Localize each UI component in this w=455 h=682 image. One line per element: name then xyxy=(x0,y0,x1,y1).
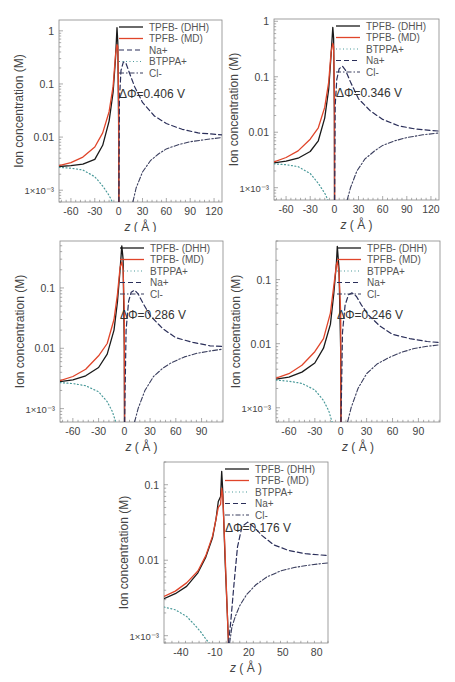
series-line-cl- xyxy=(133,138,222,202)
legend-label: BTPPA+ xyxy=(367,266,405,277)
x-tick-label: 30 xyxy=(353,203,365,215)
delta-phi-annotation: ΔΦ=0.346 V xyxy=(336,86,402,100)
series-line-tpfb-dhh- xyxy=(164,471,229,643)
x-tick-label: -60 xyxy=(63,205,78,217)
series-group xyxy=(59,28,222,212)
legend-label: Cl- xyxy=(149,68,162,79)
y-tick-label: 1 xyxy=(263,15,269,27)
legend-label: Na+ xyxy=(367,277,386,288)
plot-frame xyxy=(60,241,223,422)
x-tick-label: 90 xyxy=(413,425,425,437)
series-line-cl- xyxy=(135,349,223,422)
y-tick-label: 0.01 xyxy=(34,131,55,143)
y-tick-label: 1×10⁻³ xyxy=(24,185,54,196)
y-tick-label: 0.01 xyxy=(251,338,272,350)
legend-label: TPFB- (DHH) xyxy=(149,22,209,33)
x-tick-label: 30 xyxy=(361,425,373,437)
chart-svg: -40-102050801×10⁻³0.010.1Ion concentrati… xyxy=(110,450,350,682)
series-line-tpfb-md- xyxy=(274,43,335,200)
x-tick-label: 60 xyxy=(387,425,399,437)
series-line-cl- xyxy=(347,133,439,200)
x-tick-label: 90 xyxy=(184,205,196,217)
series-group xyxy=(60,246,223,433)
legend-label: Cl- xyxy=(366,67,379,78)
x-tick-label: 50 xyxy=(277,646,289,658)
x-tick-label: -30 xyxy=(307,425,322,437)
chart-svg: -60-3003060901201×10⁻³0.010.11Ion concen… xyxy=(227,0,455,232)
series-group xyxy=(274,27,439,210)
series-line-cl- xyxy=(230,563,328,643)
x-tick-label: -10 xyxy=(207,646,222,658)
y-tick-label: 0.1 xyxy=(256,274,271,286)
y-tick-label: 1×10⁻³ xyxy=(239,183,269,194)
x-tick-label: 0 xyxy=(121,425,127,437)
x-axis-label: z ( Å ) xyxy=(229,660,262,675)
plot-frame xyxy=(276,241,440,422)
y-tick-label: 0.1 xyxy=(40,282,55,294)
legend-label: Cl- xyxy=(367,289,380,300)
series-line-tpfb-md- xyxy=(164,488,229,643)
legend-label: Cl- xyxy=(255,510,268,521)
series-group xyxy=(276,246,440,433)
delta-phi-annotation: ΔΦ=0.406 V xyxy=(119,87,185,101)
y-tick-label: 0.01 xyxy=(139,554,160,566)
y-axis-label: Ion concentration (M) xyxy=(12,54,26,167)
legend: TPFB- (DHH)TPFB- (MD)BTPPA+Na+Cl- xyxy=(337,243,427,300)
legend-label: TPFB- (DHH) xyxy=(255,464,315,475)
series-group xyxy=(164,471,328,643)
series-line-tpfb-dhh- xyxy=(59,28,119,202)
legend-label: TPFB- (MD) xyxy=(255,475,309,486)
legend-label: TPFB- (DHH) xyxy=(150,243,210,254)
legend: TPFB- (DHH)TPFB- (MD)BTPPA+Na+Cl- xyxy=(225,464,315,521)
legend-label: TPFB- (MD) xyxy=(366,32,420,43)
x-tick-label: 20 xyxy=(243,646,255,658)
legend-label: BTPPA+ xyxy=(150,266,188,277)
legend: TPFB- (DHH)TPFB- (MD)Na+BTPPA+Cl- xyxy=(119,22,209,79)
legend-label: TPFB- (DHH) xyxy=(367,243,427,254)
x-tick-label: 30 xyxy=(137,205,149,217)
delta-phi-annotation: ΔΦ=0.246 V xyxy=(337,308,403,322)
chart-svg: -60-3003060901×10⁻³0.010.1Ion concentrat… xyxy=(227,228,455,460)
panel-4: -40-102050801×10⁻³0.010.1Ion concentrati… xyxy=(110,450,350,682)
y-tick-label: 0.1 xyxy=(254,71,269,83)
x-tick-label: 0 xyxy=(331,203,337,215)
legend-label: Cl- xyxy=(150,289,163,300)
x-tick-label: 30 xyxy=(144,425,156,437)
x-tick-label: -40 xyxy=(173,646,188,658)
legend-label: TPFB- (MD) xyxy=(149,33,203,44)
series-line-na- xyxy=(229,522,329,643)
x-tick-label: -30 xyxy=(303,203,318,215)
x-tick-label: 0 xyxy=(338,425,344,437)
panel-1: -60-3003060901201×10⁻³0.010.11Ion concen… xyxy=(227,0,455,232)
legend: TPFB- (DHH)TPFB- (MD)BTPPA+Na+Cl- xyxy=(336,21,426,78)
series-line-tpfb-md- xyxy=(59,45,119,202)
series-line-cl- xyxy=(348,345,440,422)
chart-svg: -60-3003060901201×10⁻³0.010.11Ion concen… xyxy=(0,0,230,232)
x-tick-label: 0 xyxy=(116,205,122,217)
x-tick-label: -60 xyxy=(281,425,296,437)
legend-label: BTPPA+ xyxy=(255,487,293,498)
legend-label: TPFB- (MD) xyxy=(150,254,204,265)
y-tick-label: 0.01 xyxy=(35,342,56,354)
y-tick-label: 1×10⁻³ xyxy=(129,631,159,642)
y-axis-label: Ion concentration (M) xyxy=(229,275,243,388)
x-tick-label: 90 xyxy=(401,203,413,215)
x-tick-label: -30 xyxy=(87,205,102,217)
y-tick-label: 0.1 xyxy=(39,78,54,90)
x-tick-label: 60 xyxy=(170,425,182,437)
panel-0: -60-3003060901201×10⁻³0.010.11Ion concen… xyxy=(0,0,230,232)
legend-label: Na+ xyxy=(150,277,169,288)
legend-label: Na+ xyxy=(149,45,168,56)
series-line-tpfb-dhh- xyxy=(274,27,335,200)
plot-frame xyxy=(164,462,328,643)
x-tick-label: 60 xyxy=(377,203,389,215)
legend-label: TPFB- (DHH) xyxy=(366,21,426,32)
series-line-btppa- xyxy=(164,607,209,643)
y-axis-label: Ion concentration (M) xyxy=(13,275,27,388)
series-line-tpfb-dhh- xyxy=(276,246,341,422)
series-line-tpfb-dhh- xyxy=(60,246,125,422)
y-tick-label: 1 xyxy=(48,25,54,37)
x-tick-label: 90 xyxy=(196,425,208,437)
x-tick-label: 80 xyxy=(311,646,323,658)
series-line-tpfb-md- xyxy=(276,262,341,422)
